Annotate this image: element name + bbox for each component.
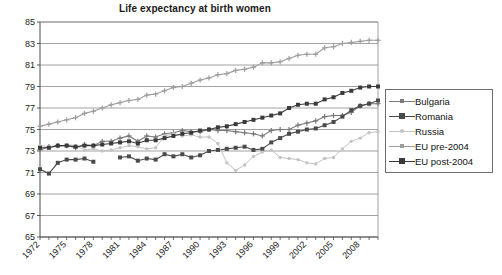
x-axis-tick-label: 1987 [154, 239, 175, 260]
x-axis-tick-label: 1999 [260, 239, 281, 260]
data-point-marker [38, 146, 42, 150]
legend-item-label: Russia [415, 127, 444, 137]
data-point-marker [314, 126, 318, 130]
data-point-marker [296, 158, 299, 161]
legend-item-romania[interactable]: Romania [389, 109, 489, 124]
data-point-marker [74, 158, 78, 162]
data-point-marker [109, 141, 113, 145]
legend-item-russia[interactable]: Russia [389, 124, 489, 139]
legend-item-eu-pre-2004[interactable]: EU pre-2004 [389, 139, 489, 154]
data-point-marker [207, 135, 210, 138]
data-point-marker [350, 140, 353, 143]
legend-marker-icon [389, 155, 415, 169]
data-point-marker [359, 136, 362, 139]
data-point-marker [314, 162, 317, 165]
data-point-marker [252, 155, 255, 158]
data-point-marker [180, 152, 184, 156]
data-point-marker [269, 140, 273, 144]
data-point-marker [251, 118, 255, 122]
legend-item-label: Bulgaria [415, 97, 450, 107]
data-point-marker [341, 147, 344, 150]
data-point-marker [243, 145, 247, 149]
data-point-marker [198, 153, 202, 157]
data-point-marker [38, 167, 42, 171]
data-point-marker [305, 128, 309, 132]
x-axis-tick-label: 1996 [234, 239, 255, 260]
data-point-marker [367, 131, 370, 134]
data-point-marker [305, 102, 309, 106]
legend-item-eu-post-2004[interactable]: EU post-2004 [389, 154, 489, 169]
data-point-marker [145, 157, 149, 161]
legend-marker-icon [389, 125, 415, 139]
data-point-marker [65, 158, 69, 162]
data-point-marker [136, 145, 139, 148]
x-axis-tick-label: 1990 [180, 239, 201, 260]
data-point-marker [358, 86, 362, 90]
data-point-marker [349, 89, 353, 93]
data-point-marker [118, 155, 122, 159]
data-point-marker [163, 136, 167, 140]
data-point-marker [136, 141, 140, 145]
y-axis-tick-label: 67 [25, 211, 35, 221]
legend-item-bulgaria[interactable]: Bulgaria [389, 94, 489, 109]
data-point-marker [127, 154, 131, 158]
y-axis-tick-label: 79 [25, 82, 35, 92]
data-point-marker [287, 157, 290, 160]
data-point-marker [332, 156, 335, 159]
data-point-marker [340, 91, 344, 95]
chart-container: Life expectancy at birth women 656769717… [0, 0, 502, 275]
data-point-marker [171, 154, 175, 158]
x-axis-tick-label: 1993 [207, 239, 228, 260]
data-point-marker [251, 148, 255, 152]
data-point-marker [278, 136, 282, 140]
data-point-marker [287, 132, 291, 136]
data-point-marker [207, 128, 211, 132]
data-point-marker [56, 161, 60, 165]
data-point-marker [296, 130, 300, 134]
y-axis-tick-label: 75 [25, 125, 35, 135]
data-point-marker [234, 122, 238, 126]
data-point-marker [323, 157, 326, 160]
data-point-marker [349, 108, 353, 112]
data-point-marker [323, 123, 327, 127]
data-point-marker [145, 138, 149, 142]
y-axis-tick-label: 81 [25, 60, 35, 70]
data-point-marker [216, 142, 219, 145]
data-point-marker [127, 139, 131, 143]
y-axis-tick-label: 69 [25, 189, 35, 199]
data-point-marker [82, 157, 86, 161]
data-point-marker [47, 146, 51, 150]
data-point-marker [260, 147, 264, 151]
data-point-marker [332, 120, 336, 124]
data-point-marker [207, 149, 211, 153]
data-point-marker [278, 156, 281, 159]
x-axis-tick-label: 2008 [340, 239, 361, 260]
data-point-marker [367, 85, 371, 89]
data-point-marker [225, 124, 229, 128]
x-axis-tick-label: 1978 [74, 239, 95, 260]
y-axis-tick-label: 77 [25, 103, 35, 113]
x-axis-tick-label: 1975 [47, 239, 68, 260]
data-point-marker [340, 115, 344, 119]
data-point-marker [91, 160, 95, 164]
data-point-marker [198, 135, 201, 138]
data-point-marker [270, 148, 273, 151]
data-point-marker [287, 106, 291, 110]
legend-item-label: EU pre-2004 [415, 142, 469, 152]
legend-marker-icon [389, 95, 415, 109]
data-point-marker [47, 172, 51, 176]
data-point-marker [216, 125, 220, 129]
data-point-marker [323, 97, 327, 101]
data-point-marker [261, 150, 264, 153]
data-point-marker [101, 149, 104, 152]
y-axis-tick-label: 71 [25, 168, 35, 178]
legend-marker-icon [389, 140, 415, 154]
data-point-marker [56, 144, 60, 148]
data-point-marker [163, 152, 167, 156]
data-point-marker [225, 161, 228, 164]
data-point-marker [243, 163, 246, 166]
data-point-marker [154, 146, 157, 149]
data-point-marker [314, 102, 318, 106]
legend-item-label: EU post-2004 [415, 157, 473, 167]
chart-legend: BulgariaRomaniaRussiaEU pre-2004EU post-… [385, 89, 493, 173]
